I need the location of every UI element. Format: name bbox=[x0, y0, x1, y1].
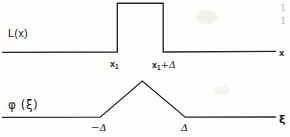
tick-x1-subscript: 1 bbox=[115, 63, 119, 70]
level-mark-lower: 1 bbox=[280, 16, 286, 26]
level-mark-upper: 1 bbox=[280, 3, 286, 13]
top-plot-tick-x1-plus-delta: x1+Δ bbox=[152, 60, 176, 70]
bottom-plot-tick-neg-delta: −Δ bbox=[91, 123, 107, 133]
bottom-plot-group bbox=[2, 81, 276, 117]
top-plot-group bbox=[2, 3, 276, 52]
scan-speck bbox=[196, 10, 218, 24]
bottom-plot-function-label: φ (ξ) bbox=[8, 99, 38, 111]
tick-x1d-subscript: 1 bbox=[157, 64, 161, 71]
top-plot-axis-label: x bbox=[279, 48, 284, 58]
bottom-plot-axis-label: ξ bbox=[279, 114, 286, 125]
scan-speck bbox=[214, 86, 230, 95]
bottom-plot-tick-pos-delta: Δ bbox=[181, 123, 188, 133]
tick-x1d-suffix: +Δ bbox=[161, 59, 176, 70]
figure-container: 1 1 L(x) x x1 x1+Δ φ (ξ) ξ −Δ Δ bbox=[0, 0, 290, 137]
top-plot-tick-x1: x1 bbox=[110, 60, 119, 69]
triangle-curve bbox=[2, 81, 276, 117]
figure-curves bbox=[0, 0, 290, 137]
rect-pulse-curve bbox=[2, 3, 276, 52]
top-plot-function-label: L(x) bbox=[8, 28, 28, 39]
